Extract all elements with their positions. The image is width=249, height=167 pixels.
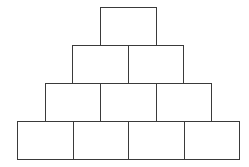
pyramid-brick-row2-1: [72, 45, 129, 84]
brick-pyramid-diagram: [0, 0, 249, 167]
pyramid-brick-row2-2: [128, 45, 185, 84]
pyramid-brick-row4-1: [17, 121, 74, 160]
pyramid-brick-row4-4: [184, 121, 241, 160]
pyramid-brick-row3-3: [156, 83, 213, 122]
pyramid-brick-row3-1: [45, 83, 102, 122]
pyramid-brick-row1-1: [100, 7, 157, 46]
pyramid-brick-row4-3: [128, 121, 185, 160]
pyramid-brick-row4-2: [73, 121, 130, 160]
pyramid-brick-row3-2: [100, 83, 157, 122]
